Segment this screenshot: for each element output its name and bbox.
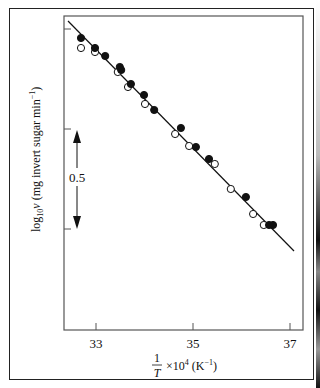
plot-area [64, 16, 303, 330]
scale-arrow: 0.5 [69, 130, 85, 229]
y-label-units-close: ) [29, 87, 43, 91]
svg-text:log10v (mg invert sugar min−1): log10v (mg invert sugar min−1) [28, 87, 45, 232]
filled-data-point [140, 91, 147, 98]
x-label-units-close: ) [213, 359, 217, 373]
open-circle-series [77, 44, 267, 228]
open-data-point [211, 160, 218, 167]
x-axis-ticks [96, 323, 290, 330]
y-label-units: (mg invert sugar min [29, 99, 43, 203]
x-label-denominator: T [154, 366, 162, 380]
filled-data-point [269, 221, 276, 228]
filled-data-point [242, 193, 249, 200]
filled-data-point [91, 44, 98, 51]
x-tick-label: 37 [284, 336, 298, 351]
filled-data-point [77, 34, 84, 41]
y-axis-label: log10v (mg invert sugar min−1) [28, 87, 45, 232]
arrow-up-icon [73, 130, 81, 143]
filled-data-point [127, 80, 134, 87]
arrow-down-icon [73, 216, 81, 229]
open-data-point [77, 44, 84, 51]
filled-data-point [102, 52, 109, 59]
x-axis-label: 1 T ×104 (K−1) [152, 351, 217, 380]
x-label-rest: ×104 (K−1) [166, 358, 217, 373]
filled-data-point [118, 66, 125, 73]
filled-data-point [205, 155, 212, 162]
x-label-times: ×10 [166, 359, 185, 373]
scale-label: 0.5 [69, 170, 85, 185]
y-axis-ticks [64, 29, 71, 229]
x-label-numerator: 1 [154, 351, 160, 365]
y-label-log: log [29, 217, 43, 232]
x-tick-label: 33 [90, 336, 103, 351]
chart-svg: 33 35 37 1 T ×104 (K−1) log10v (mg inver… [0, 0, 320, 388]
x-tick-label: 35 [187, 336, 200, 351]
open-data-point [141, 100, 148, 107]
filled-data-point [151, 106, 158, 113]
y-label-units-exponent: −1 [28, 91, 37, 100]
y-label-subscript: 10 [36, 209, 45, 217]
x-label-units: (K [189, 359, 205, 373]
open-data-point [186, 142, 193, 149]
open-data-point [227, 185, 234, 192]
open-data-point [250, 210, 257, 217]
x-label-units-exponent: −1 [204, 358, 213, 367]
filled-data-point [177, 124, 184, 131]
filled-data-point [192, 143, 199, 150]
open-data-point [172, 130, 179, 137]
